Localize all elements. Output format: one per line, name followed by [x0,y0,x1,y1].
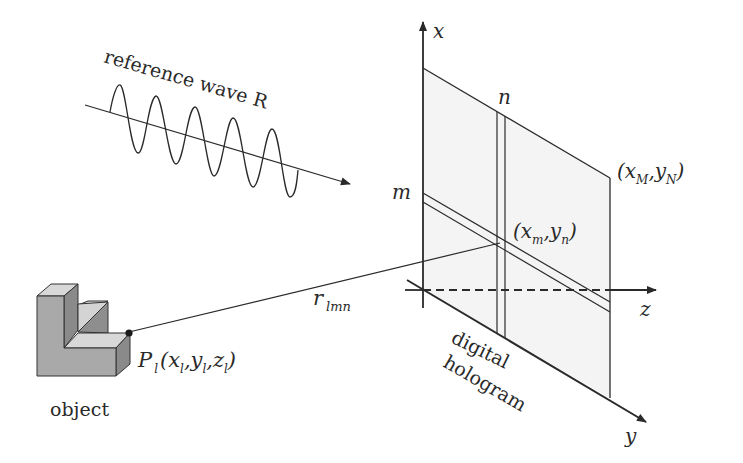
sine-wave [110,85,298,197]
y-axis-label: y [624,424,637,448]
svg-text:rlmn: rlmn [313,286,351,314]
point-p-marker [125,329,132,336]
reference-wave-label: reference wave R [102,45,271,113]
reference-wave [85,85,350,197]
x-axis-label: x [433,19,444,43]
distance-label: rlmn [313,286,351,314]
svg-text:(xM,yN): (xM,yN) [617,159,684,187]
m-index-label: m [392,180,411,204]
hologram-diagram: reference wave R x n m z y (xM,yN) (xm,y… [0,0,743,463]
corner-label: (xM,yN) [617,159,684,187]
z-axis-label: z [639,297,651,321]
point-p-label: Pl(xl,yl,zl) [137,348,236,376]
n-index-label: n [498,85,511,109]
object-label: object [50,398,109,420]
object-block [37,284,133,376]
svg-text:Pl(xl,yl,zl): Pl(xl,yl,zl) [137,348,236,376]
